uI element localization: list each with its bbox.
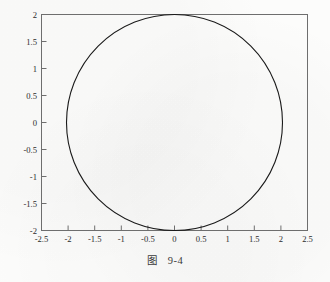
data-series-circle [67,15,283,231]
x-tick-label: -1 [118,234,125,244]
x-tick-labels: -2.5 -2 -1.5 -1 -0.5 0 0.5 1 1.5 2 2.5 [35,234,313,244]
y-tick-labels: 2 1.5 1 0.5 0 -0.5 -1 -1.5 -2 [23,10,37,236]
x-tick-label: -2.5 [35,234,49,244]
y-tick-label: 1.5 [26,37,37,47]
y-axis-ticks [42,15,47,231]
x-tick-label: 0.5 [196,234,207,244]
y-tick-label: 1 [33,64,37,74]
figure-container: 2 1.5 1 0.5 0 -0.5 -1 -1.5 -2 -2.5 -2 -1… [0,0,330,282]
x-tick-label: -0.5 [141,234,155,244]
plot-frame [42,15,308,231]
x-tick-label: 1 [226,234,230,244]
x-axis-ticks [42,226,308,231]
y-tick-label: -1.5 [23,199,37,209]
y-tick-label: 2 [33,10,37,20]
y-tick-label: 0.5 [26,91,37,101]
x-tick-label: -2 [65,234,72,244]
y-tick-label: 0 [33,118,37,128]
y-tick-label: -0.5 [23,145,37,155]
x-tick-label: 2.5 [302,234,313,244]
x-tick-label: -1.5 [88,234,102,244]
figure-caption: 图 9-4 [0,252,330,267]
x-tick-label: 0 [172,234,176,244]
x-tick-label: 2 [279,234,283,244]
plot-canvas: 2 1.5 1 0.5 0 -0.5 -1 -1.5 -2 -2.5 -2 -1… [0,0,330,282]
x-tick-label: 1.5 [249,234,260,244]
y-tick-label: -1 [30,172,37,182]
